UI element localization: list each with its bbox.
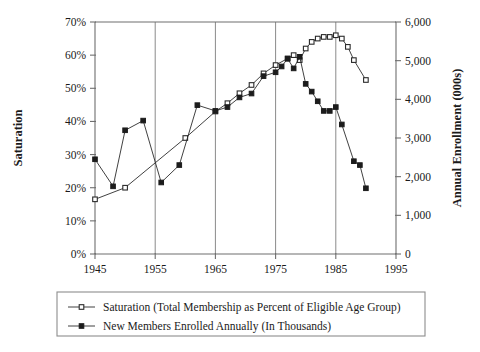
- ytick-label-left: 0%: [71, 248, 87, 260]
- data-point: [297, 55, 302, 60]
- data-point: [195, 103, 200, 108]
- xtick-label: 1995: [385, 263, 408, 275]
- legend-entry-1: Saturation (Total Membership as Percent …: [68, 301, 401, 314]
- data-point: [225, 105, 230, 110]
- ytick-label-right: 6,000: [405, 16, 431, 29]
- y-axis-title-left: Saturation: [11, 109, 25, 166]
- xtick-label: 1955: [144, 263, 167, 275]
- ytick-label-left: 50%: [65, 82, 87, 94]
- series-2: [93, 55, 369, 191]
- ytick-label-right: 3,000: [405, 132, 431, 145]
- data-point: [364, 78, 369, 83]
- data-point: [315, 36, 320, 41]
- data-point: [346, 45, 351, 50]
- data-point: [249, 91, 254, 96]
- data-point: [93, 157, 98, 162]
- data-point: [291, 66, 296, 71]
- data-point: [279, 64, 284, 69]
- data-point: [358, 163, 363, 168]
- chart-page: 0%10%20%30%40%50%60%70% 01,0002,0003,000…: [0, 0, 480, 352]
- vertical-gridlines: [155, 22, 336, 254]
- data-point: [309, 40, 314, 45]
- data-point: [273, 63, 278, 68]
- series-1: [93, 33, 369, 202]
- ytick-label-right: 1,000: [405, 209, 431, 222]
- ytick-label-left: 40%: [65, 115, 87, 127]
- data-point: [123, 185, 128, 190]
- xtick-label: 1965: [204, 263, 227, 275]
- series-line-1: [95, 35, 366, 199]
- data-point: [249, 83, 254, 88]
- data-point: [340, 36, 345, 41]
- data-point: [141, 118, 146, 123]
- ytick-label-right: 5,000: [405, 55, 431, 68]
- data-point: [327, 35, 332, 40]
- data-point: [111, 184, 116, 189]
- data-point: [177, 163, 182, 168]
- ytick-label-left: 10%: [65, 215, 87, 227]
- data-point: [285, 56, 290, 61]
- data-point: [315, 99, 320, 104]
- data-point: [364, 186, 369, 191]
- series-line-2: [95, 57, 366, 189]
- saturation-enrollment-chart: 0%10%20%30%40%50%60%70% 01,0002,0003,000…: [0, 0, 480, 352]
- data-point: [261, 74, 266, 79]
- data-point: [352, 58, 357, 63]
- xtick-label: 1985: [324, 263, 347, 275]
- ytick-label-right: 0: [405, 248, 411, 260]
- data-point: [321, 109, 326, 114]
- right-axis-tick-labels: 01,0002,0003,0004,0005,0006,000: [405, 16, 431, 260]
- data-point: [213, 109, 218, 114]
- data-point: [321, 35, 326, 40]
- data-point: [303, 82, 308, 87]
- ytick-label-left: 70%: [65, 16, 87, 28]
- data-point: [237, 95, 242, 100]
- ytick-label-right: 4,000: [405, 93, 431, 106]
- data-point: [159, 180, 164, 185]
- data-point: [334, 105, 339, 110]
- data-point: [334, 33, 339, 38]
- data-point: [309, 89, 314, 94]
- xtick-label: 1945: [84, 263, 107, 275]
- xtick-label: 1975: [264, 263, 287, 275]
- ytick-label-left: 60%: [65, 49, 87, 61]
- legend-marker: [79, 305, 84, 310]
- ytick-label-left: 20%: [65, 182, 87, 194]
- left-axis-tick-labels: 0%10%20%30%40%50%60%70%: [65, 16, 87, 260]
- legend-marker: [79, 324, 84, 329]
- plot-axes: [95, 22, 396, 254]
- ytick-label-right: 2,000: [405, 171, 431, 184]
- legend-label: Saturation (Total Membership as Percent …: [103, 301, 401, 314]
- data-point: [303, 46, 308, 51]
- series-group: [93, 33, 369, 202]
- ytick-label-left: 30%: [65, 149, 87, 161]
- data-point: [273, 70, 278, 75]
- data-point: [327, 109, 332, 114]
- y-axis-title-right: Annual Enrollment (000s): [450, 69, 464, 208]
- legend-entry-2: New Members Enrolled Annually (In Thousa…: [68, 320, 331, 333]
- x-axis-tick-labels: 194519551965197519851995: [84, 263, 408, 275]
- data-point: [340, 122, 345, 127]
- data-point: [291, 53, 296, 58]
- data-point: [123, 128, 128, 133]
- data-point: [352, 159, 357, 164]
- legend-label: New Members Enrolled Annually (In Thousa…: [103, 320, 331, 333]
- data-point: [93, 197, 98, 202]
